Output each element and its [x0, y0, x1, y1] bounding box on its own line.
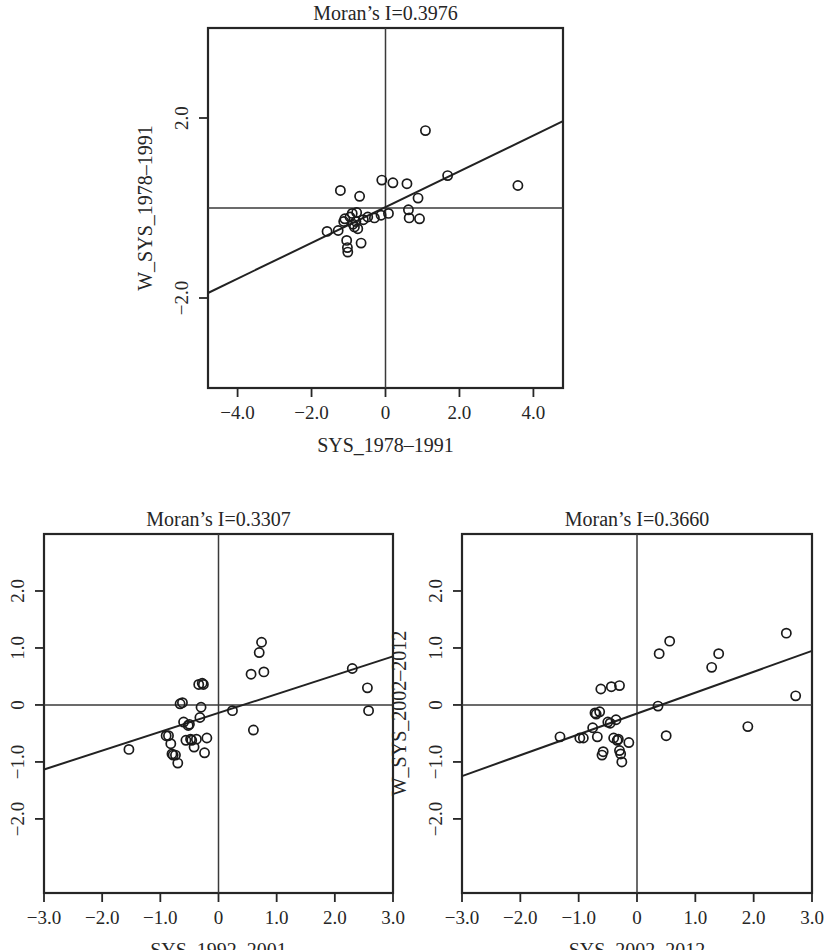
- x-tick-label: −2.0: [85, 907, 119, 928]
- chart-title: Moran’s I=0.3307: [146, 508, 291, 530]
- data-point: [791, 691, 800, 700]
- scatterplot-panel-2002-2012: Moran’s I=0.3660−3.0−2.0−1.001.02.03.02.…: [418, 506, 829, 950]
- data-point: [782, 629, 791, 638]
- x-tick-label: 4.0: [522, 402, 546, 423]
- data-point: [196, 703, 205, 712]
- y-tick-label: −1.0: [7, 745, 28, 779]
- x-tick-label: −1.0: [561, 907, 595, 928]
- x-axis-label: SYS_2002–2012: [569, 939, 706, 950]
- x-tick-label: −3.0: [27, 907, 61, 928]
- x-axis-label: SYS_1992–2001: [150, 939, 287, 950]
- data-point: [356, 239, 365, 248]
- data-point: [202, 733, 211, 742]
- y-tick-label: −1.0: [425, 745, 446, 779]
- x-tick-label: −4.0: [220, 402, 254, 423]
- x-tick-label: 3.0: [381, 907, 405, 928]
- scatterplot-panel-1992-2001: Moran’s I=0.3307−3.0−2.0−1.001.02.03.02.…: [0, 506, 418, 950]
- data-point: [402, 179, 411, 188]
- y-tick-label: 2.0: [7, 579, 28, 603]
- y-tick-label: 1.0: [425, 636, 446, 660]
- data-point: [413, 194, 422, 203]
- chart-title: Moran’s I=0.3660: [565, 508, 710, 530]
- x-tick-label: −2.0: [294, 402, 328, 423]
- data-point: [655, 649, 664, 658]
- chart-title: Moran’s I=0.3976: [313, 2, 458, 24]
- y-axis-label: W_SYS_2002–2012: [388, 631, 410, 797]
- y-axis-label: W_SYS_1978–1991: [134, 125, 156, 291]
- data-point: [513, 181, 522, 190]
- data-point: [662, 731, 671, 740]
- chart-moran-1992-2001: Moran’s I=0.3307−3.0−2.0−1.001.02.03.02.…: [0, 506, 418, 950]
- data-point: [707, 663, 716, 672]
- data-point: [249, 725, 258, 734]
- data-point: [355, 192, 364, 201]
- data-point: [246, 670, 255, 679]
- data-point: [743, 722, 752, 731]
- x-tick-label: 2.0: [742, 907, 766, 928]
- x-tick-label: 0: [214, 907, 224, 928]
- scatterplot-panel-1978-1991: Moran’s I=0.3976−4.0−2.002.04.02.0−2.0SY…: [80, 0, 580, 460]
- data-point: [593, 732, 602, 741]
- y-tick-label: −2.0: [171, 281, 192, 315]
- data-point: [596, 684, 605, 693]
- x-tick-label: 1.0: [683, 907, 707, 928]
- data-point: [336, 186, 345, 195]
- moran-scatterplot-figure: Moran’s I=0.3976−4.0−2.002.04.02.0−2.0SY…: [0, 0, 829, 950]
- data-point: [388, 178, 397, 187]
- x-tick-label: 0: [381, 402, 391, 423]
- x-axis-label: SYS_1978–1991: [317, 434, 454, 456]
- x-tick-label: 1.0: [265, 907, 289, 928]
- x-tick-label: 2.0: [448, 402, 472, 423]
- data-point: [259, 667, 268, 676]
- data-point: [363, 683, 372, 692]
- y-tick-label: −2.0: [7, 802, 28, 836]
- x-tick-label: 0: [632, 907, 642, 928]
- x-tick-label: −1.0: [143, 907, 177, 928]
- data-point: [200, 748, 209, 757]
- x-tick-label: 3.0: [800, 907, 824, 928]
- data-point: [665, 637, 674, 646]
- x-tick-label: 2.0: [323, 907, 347, 928]
- data-point: [415, 214, 424, 223]
- data-point: [257, 638, 266, 647]
- y-tick-label: 2.0: [425, 579, 446, 603]
- data-point: [255, 648, 264, 657]
- chart-moran-2002-2012: Moran’s I=0.3660−3.0−2.0−1.001.02.03.02.…: [418, 506, 829, 950]
- y-tick-label: −2.0: [425, 802, 446, 836]
- y-tick-label: 1.0: [7, 636, 28, 660]
- data-point: [624, 738, 633, 747]
- data-point: [364, 706, 373, 715]
- data-point: [421, 126, 430, 135]
- y-tick-label: 0: [425, 700, 446, 710]
- data-point: [124, 745, 133, 754]
- chart-moran-1978-1991: Moran’s I=0.3976−4.0−2.002.04.02.0−2.0SY…: [80, 0, 580, 460]
- x-tick-label: −3.0: [445, 907, 479, 928]
- x-tick-label: −2.0: [503, 907, 537, 928]
- y-tick-label: 2.0: [171, 106, 192, 130]
- y-tick-label: 0: [7, 700, 28, 710]
- data-point: [714, 649, 723, 658]
